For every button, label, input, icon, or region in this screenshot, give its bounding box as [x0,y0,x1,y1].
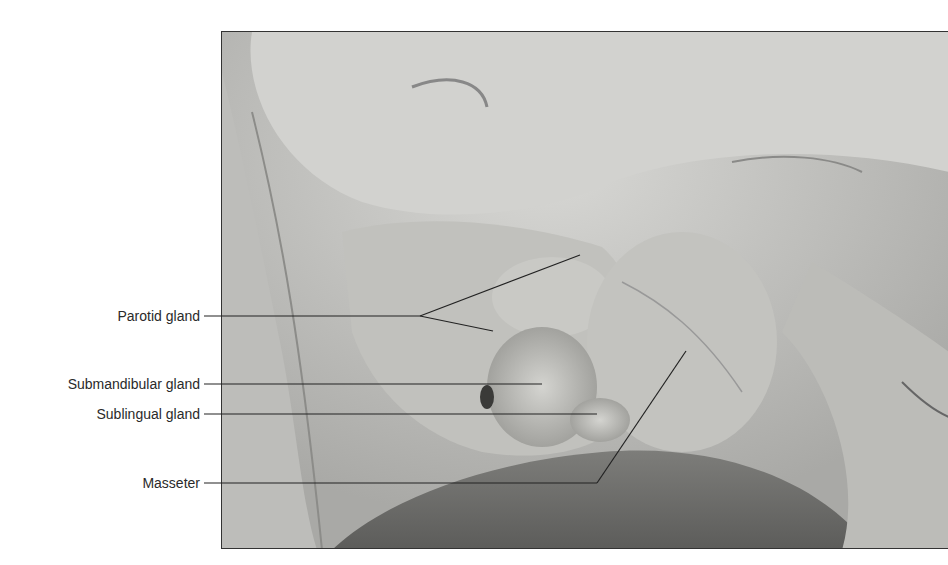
label-sublingual-gland: Sublingual gland [96,406,200,422]
label-submandibular-gland: Submandibular gland [68,376,200,392]
label-parotid-gland: Parotid gland [117,308,200,324]
label-masseter: Masseter [142,475,200,491]
anatomy-photo [221,31,948,549]
dissection-image [222,32,948,549]
